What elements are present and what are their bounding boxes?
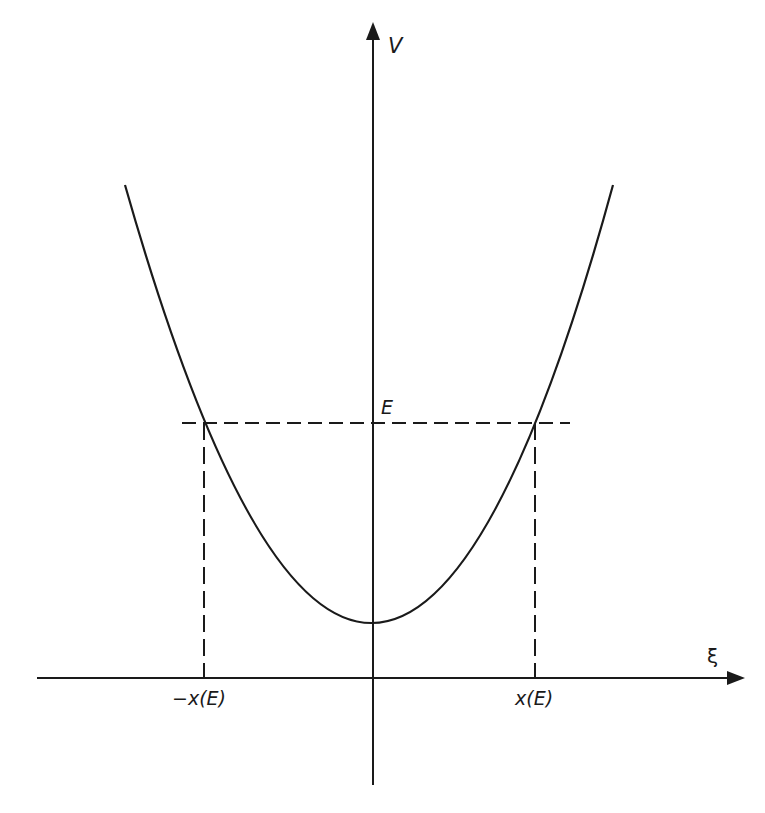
xi-axis-arrow-icon: [727, 671, 745, 685]
xi-axis-label: ξ: [707, 646, 718, 666]
right-turning-point-label: x(E): [515, 689, 553, 708]
potential-curve: [125, 185, 613, 623]
energy-label: E: [381, 398, 393, 417]
left-turning-point-label: −x(E): [172, 689, 226, 708]
v-axis-arrow-icon: [366, 22, 380, 40]
v-axis-label: V: [388, 36, 402, 57]
